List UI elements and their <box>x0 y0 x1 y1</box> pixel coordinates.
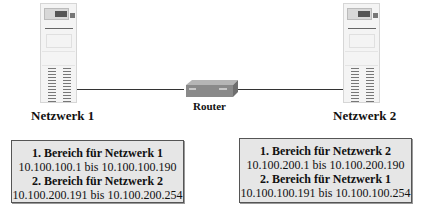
range-1-value: 10.100.200.1 bis 10.100.200.190 <box>240 158 411 172</box>
address-range-box-network-2: 1. Bereich für Netzwerk 2 10.100.200.1 b… <box>239 138 412 203</box>
range-1-title: 1. Bereich für Netzwerk 2 <box>240 144 411 158</box>
range-2-title: 2. Bereich für Netzwerk 1 <box>240 172 411 186</box>
connection-line-right <box>238 89 344 90</box>
range-1-value: 10.100.100.1 bis 10.100.100.190 <box>12 160 183 174</box>
range-2-title: 2. Bereich für Netzwerk 2 <box>12 174 183 188</box>
connection-line-left <box>77 89 184 90</box>
range-2-value: 10.100.100.191 bis 10.100.100.254 <box>240 186 411 200</box>
router-icon <box>183 80 238 97</box>
range-2-value: 10.100.200.191 bis 10.100.200.254 <box>12 188 183 202</box>
server-left-icon <box>40 3 77 103</box>
range-1-title: 1. Bereich für Netzwerk 1 <box>12 146 183 160</box>
router-label: Router <box>193 100 226 112</box>
address-range-box-network-1: 1. Bereich für Netzwerk 1 10.100.100.1 b… <box>11 140 184 203</box>
network-1-label: Netzwerk 1 <box>31 108 94 124</box>
network-2-label: Netzwerk 2 <box>333 108 396 124</box>
server-right-icon <box>343 3 380 103</box>
